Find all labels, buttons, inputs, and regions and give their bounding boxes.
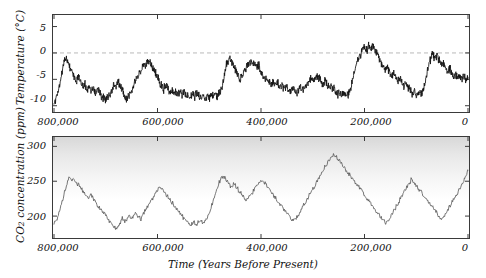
co2-series-svg <box>53 137 469 238</box>
co2-axis-label-subscript: 2 <box>17 221 26 226</box>
co2-axis-label-pre: CO <box>14 226 26 243</box>
co2-xtick-800000: 800,000 <box>28 242 88 253</box>
temperature-xtick-400000: 400,000 <box>237 116 297 127</box>
temperature-xtick-600000: 600,000 <box>133 116 193 127</box>
temperature-plot-area <box>52 14 470 113</box>
temperature-xtick-0: 0 <box>452 116 478 127</box>
temperature-ytick-5: 5 <box>24 22 46 33</box>
temperature-xtick-200000: 200,000 <box>341 116 401 127</box>
temperature-xtick-800000: 800,000 <box>28 116 88 127</box>
co2-axis-label-post: concentration (ppm) <box>14 107 26 221</box>
co2-xtick-200000: 200,000 <box>341 242 401 253</box>
co2-xtick-0: 0 <box>452 242 478 253</box>
temperature-series-svg <box>53 15 469 112</box>
co2-plot-area <box>52 136 470 239</box>
x-axis-title: Time (Years Before Present) <box>0 258 486 270</box>
co2-ytick-200: 200 <box>16 211 46 222</box>
co2-xtick-400000: 400,000 <box>237 242 297 253</box>
co2-xtick-600000: 600,000 <box>133 242 193 253</box>
temperature-ytick--10: -10 <box>16 93 46 104</box>
temperature-ytick--5: -5 <box>20 69 46 80</box>
temperature-ytick-0: 0 <box>24 45 46 56</box>
co2-ytick-250: 250 <box>16 175 46 186</box>
figure-root: Temperature (°C) 5 0 -5 -10 800,000 600,… <box>0 0 486 278</box>
co2-ytick-300: 300 <box>16 140 46 151</box>
